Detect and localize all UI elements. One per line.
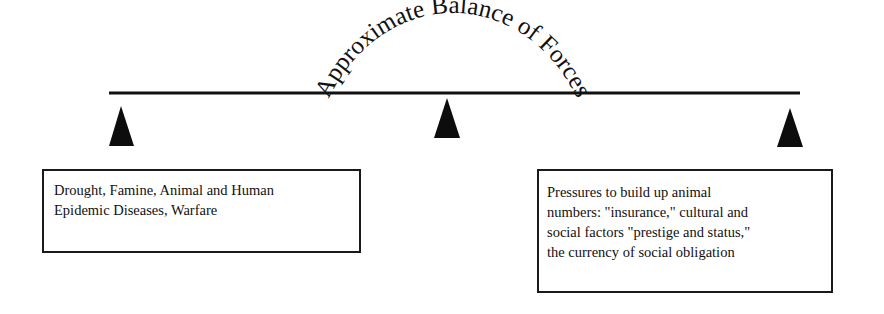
right-box-line: social factors "prestige and status," xyxy=(547,222,823,242)
right-box-line: numbers: "insurance," cultural and xyxy=(547,202,823,222)
right-fulcrum-triangle-icon xyxy=(777,108,803,147)
arc-title-path: Approximate Balance of Forces xyxy=(309,0,597,101)
right-forces-box: Pressures to build up animal numbers: "i… xyxy=(537,169,833,293)
right-box-line: Pressures to build up animal xyxy=(547,182,823,202)
right-box-line: the currency of social obligation xyxy=(547,242,823,262)
left-forces-box: Drought, Famine, Animal and Human Epidem… xyxy=(42,169,361,253)
left-box-line: Drought, Famine, Animal and Human xyxy=(54,180,349,200)
left-fulcrum-triangle-icon xyxy=(109,106,134,146)
left-box-line: Epidemic Diseases, Warfare xyxy=(54,200,349,220)
center-fulcrum-triangle-icon xyxy=(434,98,460,138)
arc-title: Approximate Balance of Forces xyxy=(309,0,597,101)
